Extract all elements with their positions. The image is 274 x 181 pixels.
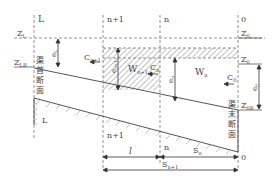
label-bottom-L: L	[42, 116, 48, 125]
svg-text:末: 末	[228, 109, 236, 119]
canal-section-diagram: L n+1 n 0 ZL Z0 ZLB Z0 Z0B eL en+1 en e0…	[0, 0, 274, 181]
label-z0: Z0	[241, 55, 250, 65]
label-dist-l: l	[129, 146, 132, 156]
canal-bed-line	[34, 98, 238, 152]
label-eL: eL	[50, 50, 58, 57]
label-section-n: n	[164, 15, 169, 24]
svg-text:面: 面	[228, 130, 236, 139]
bed-hatching	[36, 100, 230, 154]
tail-section-label: 渠 末 断 面	[228, 99, 236, 139]
label-en: en	[167, 76, 175, 83]
label-section-L: L	[38, 14, 44, 24]
label-bottom-0: 0	[241, 153, 246, 162]
label-c0: C0	[227, 73, 236, 83]
svg-text:面: 面	[36, 86, 44, 95]
label-section-n1: n+1	[107, 15, 124, 24]
label-bottom-n1: n+1	[107, 131, 124, 140]
label-dist-sn1: Sn+1	[162, 160, 178, 170]
hatched-band	[103, 48, 238, 58]
label-wn: Wn	[195, 67, 208, 78]
label-z0b: Z0B	[241, 101, 254, 111]
label-cn1: Cn+1	[84, 53, 101, 63]
svg-text:断: 断	[36, 75, 44, 85]
label-zlb: ZLB	[14, 58, 27, 68]
svg-text:断: 断	[228, 119, 236, 129]
svg-text:渠: 渠	[36, 55, 44, 65]
head-section-label: 渠 首 断 面	[36, 55, 44, 95]
svg-text:首: 首	[36, 65, 44, 75]
label-z0-prime: Z0	[241, 29, 250, 39]
label-bottom-n: n	[164, 143, 169, 152]
label-dist-sn: Sn	[193, 146, 202, 156]
svg-text:渠: 渠	[228, 99, 236, 109]
label-section-0: 0	[241, 15, 246, 24]
label-zl: ZL	[17, 29, 27, 39]
label-e0: e0	[251, 84, 259, 91]
